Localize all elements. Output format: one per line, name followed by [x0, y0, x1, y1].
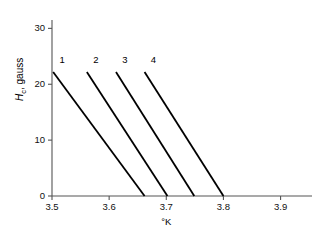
x-tick-label: 3.9 [274, 202, 287, 212]
y-tick-label: 10 [34, 135, 45, 145]
x-axis-label: °K [161, 216, 171, 227]
y-axis-label: Hc, gauss [14, 58, 28, 101]
curve-label-4: 4 [151, 55, 156, 65]
y-tick-label: 0 [40, 191, 45, 201]
y-tick-label: 30 [34, 24, 45, 34]
y-axis-label-symbol: H [14, 94, 25, 101]
x-tick-label: 3.5 [45, 202, 58, 212]
curve-label-2: 2 [93, 55, 98, 65]
data-curves [53, 72, 223, 196]
curve-label-1: 1 [59, 55, 64, 65]
plot-canvas [0, 0, 326, 235]
y-tick-label: 20 [34, 80, 45, 90]
x-tick-label: 3.6 [103, 202, 116, 212]
figure-critical-field-vs-temperature: 3.53.63.73.83.90102030 °K Hc, gauss 1234 [0, 0, 326, 235]
y-axis-label-subscript: c [19, 90, 28, 94]
y-axis-label-units: , gauss [14, 58, 25, 90]
x-tick-label: 3.8 [217, 202, 230, 212]
x-tick-label: 3.7 [160, 202, 173, 212]
curve-label-3: 3 [122, 55, 127, 65]
